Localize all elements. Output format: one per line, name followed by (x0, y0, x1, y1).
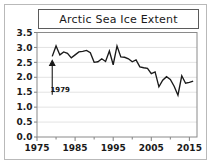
ytick-label-3.0: 3.0 (17, 43, 33, 53)
ytick-label-1.5: 1.5 (17, 87, 33, 97)
chart-frame: 0.00.51.01.52.02.53.03.51975198519952005… (4, 4, 207, 160)
chart-title: Arctic Sea Ice Extent (59, 13, 177, 26)
ytick-label-1.0: 1.0 (17, 102, 33, 112)
ytick-label-0.5: 0.5 (17, 117, 33, 127)
xtick-label-1975: 1975 (24, 143, 49, 153)
xtick-label-2015: 2015 (177, 143, 202, 153)
ytick-label-0.0: 0.0 (17, 132, 33, 142)
ytick-label-3.5: 3.5 (17, 28, 33, 38)
chart-title-box: Arctic Sea Ice Extent (38, 9, 199, 29)
ytick-label-2.0: 2.0 (17, 72, 33, 82)
xtick-label-2005: 2005 (139, 143, 164, 153)
xtick-label-1985: 1985 (63, 143, 88, 153)
ytick-label-2.5: 2.5 (17, 58, 33, 68)
annotation-label-1979: 1979 (50, 86, 70, 94)
xtick-label-1995: 1995 (101, 143, 126, 153)
